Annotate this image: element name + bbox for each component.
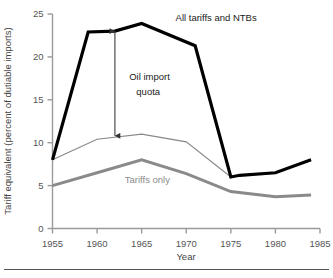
annotation-oil-import-quota-line1: Oil import: [129, 71, 170, 82]
y-tick-label-5: 5: [38, 180, 43, 191]
x-tick-label-1955: 1955: [42, 238, 63, 249]
x-tick-label-1965: 1965: [131, 238, 152, 249]
tariff-equivalent-line-chart: 0510152025 1955196019651970197519801985 …: [0, 0, 333, 278]
annotation-oil-import-quota-line2: quota: [136, 86, 160, 97]
y-tick-label-10: 10: [33, 137, 44, 148]
y-axis-title: Tariff equivalent (percent of dutiable i…: [2, 27, 13, 214]
y-tick-label-0: 0: [38, 223, 43, 234]
x-tick-label-1970: 1970: [176, 238, 197, 249]
x-tick-label-1980: 1980: [265, 238, 286, 249]
y-tick-label-25: 25: [33, 8, 44, 19]
x-tick-label-1975: 1975: [220, 238, 241, 249]
x-axis-title: Year: [176, 251, 195, 262]
y-tick-label-20: 20: [33, 51, 44, 62]
x-tick-label-1960: 1960: [87, 238, 108, 249]
x-tick-label-1985: 1985: [309, 238, 330, 249]
annotation-all-tariffs-ntbs: All tariffs and NTBs: [176, 12, 257, 23]
y-tick-label-15: 15: [33, 94, 44, 105]
chart-figure: 0510152025 1955196019651970197519801985 …: [0, 0, 333, 278]
annotation-tariffs-only: Tariffs only: [125, 174, 170, 185]
chart-background: [0, 0, 333, 278]
